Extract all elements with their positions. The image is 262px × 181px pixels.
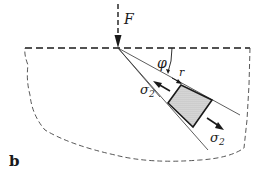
stress-arrow-upper xyxy=(153,81,170,91)
panel-label: b xyxy=(9,152,20,170)
stress-label-upper: σ2 xyxy=(140,82,155,99)
stress-label-lower: σ2 xyxy=(210,130,225,147)
radius-label: r xyxy=(179,66,185,79)
force-label: F xyxy=(123,11,135,27)
angle-arc xyxy=(168,48,172,72)
radius-arrowhead xyxy=(176,79,182,84)
stress-arrow-lower xyxy=(207,118,224,130)
stress-element xyxy=(168,85,212,127)
angle-label: φ xyxy=(157,55,167,71)
force-arrow xyxy=(115,4,122,48)
stress-diagram: F φ r σ2 σ2 b xyxy=(0,0,262,181)
